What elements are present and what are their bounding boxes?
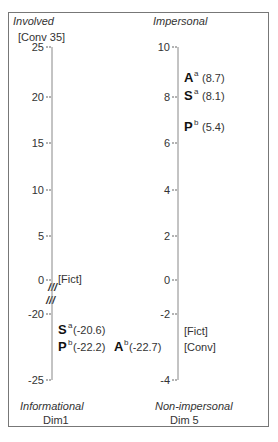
- dim5-tick-label: 4: [164, 184, 170, 196]
- dim5-tick-label: 0: [164, 274, 170, 286]
- dim1-bracket-label: [Fict]: [58, 273, 82, 285]
- dim5-title: Dim 5: [170, 414, 199, 426]
- dim1-title: Dim1: [43, 414, 69, 426]
- dim1-bottom-label: Informational: [20, 400, 84, 412]
- dim1-point-s: S: [58, 322, 67, 337]
- dim5-tick-label: 2: [164, 230, 170, 242]
- dim5-point-a-sup: a: [194, 69, 199, 78]
- dim1-tick-label: 10: [32, 184, 44, 196]
- dim5-bracket-label: [Conv]: [184, 341, 216, 353]
- axis-break-mark-2: ///: [45, 294, 57, 306]
- dim1-point-a-value: (-22.7): [129, 341, 161, 353]
- dim5-bracket-label: [Fict]: [184, 325, 208, 337]
- dim5-tick-label: -2: [160, 308, 170, 320]
- dim1-tick-label: 15: [32, 137, 44, 149]
- dim1-tick-label: 20: [32, 91, 44, 103]
- dim1-point-p-value: (-22.2): [73, 341, 105, 353]
- dim5-point-s-value: (8.1): [202, 90, 225, 102]
- dim5-tick-label: 8: [164, 91, 170, 103]
- dim5-point-s-sup: a: [194, 87, 199, 96]
- dim5-point-a-value: (8.7): [202, 72, 225, 84]
- dim5-top-label: Impersonal: [153, 15, 208, 27]
- dim1-top-label: Involved: [13, 15, 55, 27]
- dim5-point-p-value: (5.4): [202, 121, 225, 133]
- dim5-bottom-label: Non-impersonal: [155, 400, 233, 412]
- dim1-tick-label: 5: [38, 230, 44, 242]
- dim1-tick-label: -25: [28, 374, 44, 386]
- dim5-point-a: A: [184, 70, 194, 85]
- dim5-point-p: P: [184, 119, 193, 134]
- dim5-tick-label: 10: [158, 41, 170, 53]
- chart-svg: Involved [Conv 35] Informational Dim1 //…: [0, 0, 278, 442]
- dim5-point-p-sup: b: [194, 118, 199, 127]
- dim1-tick-label: 0: [38, 274, 44, 286]
- dim1-point-p: P: [58, 339, 67, 354]
- dim1-point-a: A: [114, 339, 124, 354]
- dim1-tick-label: 25: [32, 41, 44, 53]
- dim1-tick-label: -20: [28, 308, 44, 320]
- dim5-tick-label: -4: [160, 374, 170, 386]
- dim5-point-s: S: [184, 88, 193, 103]
- dim1-point-s-value: (-20.6): [73, 324, 105, 336]
- dim5-tick-label: 6: [164, 137, 170, 149]
